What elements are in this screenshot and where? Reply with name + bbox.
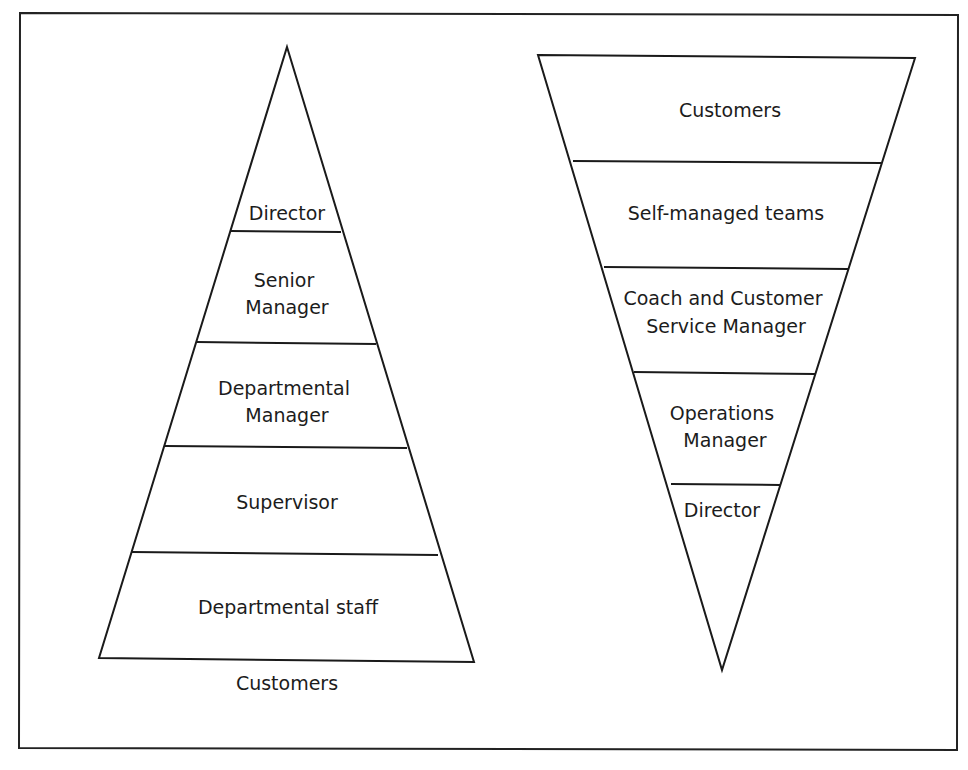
pyramid-tier-director: Director <box>249 202 326 224</box>
pyramid-divider-2 <box>197 342 376 344</box>
inverted-divider-4 <box>671 484 780 485</box>
pyramid-outline <box>99 47 474 662</box>
inverted-tier-self-managed-teams: Self-managed teams <box>628 202 824 224</box>
pyramid-tier-departmental-staff: Departmental staff <box>198 596 379 618</box>
org-structure-diagram: Director Senior Manager Departmental Man… <box>0 0 968 770</box>
outer-frame <box>19 13 958 750</box>
inverted-tier-coach-customer-service-manager: Coach and Customer Service Manager <box>623 287 828 337</box>
pyramid-tier-senior-manager: Senior Manager <box>245 269 328 318</box>
pyramid-below-label-customers: Customers <box>236 672 338 694</box>
inverted-divider-3 <box>634 372 815 374</box>
pyramid-tier-departmental-manager: Departmental Manager <box>218 377 356 426</box>
inverted-tier-operations-manager: Operations Manager <box>670 402 781 451</box>
pyramid-tier-supervisor: Supervisor <box>236 491 338 513</box>
inverted-tier-director: Director <box>684 499 761 521</box>
inverted-divider-1 <box>573 161 881 163</box>
inverted-pyramid-outline <box>538 55 915 670</box>
inverted-divider-2 <box>604 267 848 269</box>
traditional-pyramid: Director Senior Manager Departmental Man… <box>99 47 474 694</box>
inverted-tier-customers: Customers <box>679 99 781 121</box>
pyramid-divider-1 <box>231 231 341 232</box>
pyramid-divider-4 <box>132 552 438 555</box>
pyramid-divider-3 <box>165 446 407 448</box>
inverted-pyramid: Customers Self-managed teams Coach and C… <box>538 55 915 670</box>
